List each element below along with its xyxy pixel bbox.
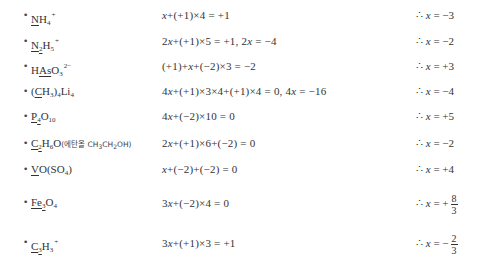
formula-part: + [55,37,59,45]
formula-part: O [41,110,49,122]
bullet-icon: • [23,3,28,27]
formula-part: O [51,64,59,76]
result-value: +4 [442,163,454,175]
formula-part: H [42,85,50,97]
formula-part: 3 [50,246,54,254]
result-value: −3 [442,9,454,21]
oxidation-equation: (+1)+x+(−2)×3 = −2 [162,54,256,78]
bullet-icon: • [23,29,28,53]
list-item: •Fe3O43x+(−2)×4 = 0∴ x = +83 [0,190,477,216]
formula-part: + [51,11,55,19]
oxidation-equation: x+(+1)×4 = +1 [162,3,230,27]
formula-part: 2− [64,62,71,70]
oxidation-equation: 4x+(−2)×10 = 0 [162,104,235,128]
formula-part: N [31,13,39,25]
fraction: 83 [451,193,458,216]
chemical-formula: Fe3O4 [31,190,57,218]
list-item: •NH4+x+(+1)×4 = +1∴ x = −3 [0,3,477,27]
list-item: •N2H5+2x+(+1)×5 = +1, 2x = −4∴ x = −2 [0,29,477,53]
list-item: •VO(SO4)x+(−2)+(−2) = 0∴ x = +4 [0,157,477,181]
result-value: +5 [442,110,454,122]
oxidation-equation: 3x+(−2)×4 = 0 [162,190,229,216]
chemical-formula: C2H6O(에탄올 CH3CH2OH) [31,131,131,159]
result-value: −4 [442,85,454,97]
chemical-formula: VO(SO4) [31,157,72,185]
formula-part: CH [102,140,113,149]
oxidation-result: ∴ x = −2 [416,29,454,53]
formula-part: H [42,240,50,252]
oxidation-equation: x+(−2)+(−2) = 0 [162,157,238,181]
formula-part: H [39,13,47,25]
oxidation-result: ∴ x = −2 [416,131,454,155]
oxidation-equation: 2x+(+1)×6+(−2) = 0 [162,131,255,155]
result-value: −2 [442,137,454,149]
formula-part: 4 [70,91,74,99]
fraction-numerator: 2 [451,233,458,245]
formula-part: O(SO [39,163,65,175]
formula-part: 4 [53,202,57,210]
formula-part: V [31,163,39,175]
formula-part: 4 [47,19,51,27]
formula-part: 3 [59,70,63,78]
chemical-formula: C3H3+ [31,230,58,262]
result-value: +3 [442,60,454,72]
fraction: 23 [451,233,458,256]
oxidation-result: ∴ x = +83 [416,190,458,216]
formula-part: 10 [49,116,56,124]
formula-part: 5 [50,45,54,53]
result-value: −2 [442,35,454,47]
oxidation-result: ∴ x = −3 [416,3,454,27]
list-item: •C2H6O(에탄올 CH3CH2OH)2x+(+1)×6+(−2) = 0∴ … [0,131,477,155]
fraction-numerator: 8 [451,193,458,205]
formula-part: C [35,85,42,97]
list-item: •C3H3+3x+(+1)×3 = +1∴ x = −23 [0,230,477,256]
bullet-icon: • [23,190,28,214]
formula-part: ) [68,163,72,175]
oxidation-result: ∴ x = −23 [416,230,458,256]
fraction-denominator: 3 [451,205,458,216]
oxidation-equation: 3x+(+1)×3 = +1 [162,230,236,256]
formula-part: + [54,238,58,246]
list-item: •(CH3)4Li44x+(+1)×3×4+(+1)×4 = 0, 4x = −… [0,79,477,103]
list-item: •HAsO32−(+1)+x+(−2)×3 = −2∴ x = +3 [0,54,477,78]
oxidation-result: ∴ x = +3 [416,54,454,78]
bullet-icon: • [23,104,28,128]
oxidation-result: ∴ x = +5 [416,104,454,128]
formula-part: As [39,64,51,76]
formula-part: (에탄올 CH [61,140,98,149]
bullet-icon: • [23,157,28,181]
formula-part: Fe [31,196,42,208]
bullet-icon: • [23,230,28,254]
oxidation-result: ∴ x = −4 [416,79,454,103]
chemical-formula: P4O10 [31,104,56,132]
oxidation-result: ∴ x = +4 [416,157,454,181]
formula-part: H [42,137,50,149]
formula-part: OH) [117,140,131,149]
chemical-formula: (CH3)4Li4 [31,79,74,107]
bullet-icon: • [23,54,28,78]
formula-part: H [31,64,39,76]
bullet-icon: • [23,79,28,103]
formula-part: N [31,39,39,51]
fraction-denominator: 3 [451,245,458,256]
oxidation-equation: 2x+(+1)×5 = +1, 2x = −4 [162,29,277,53]
oxidation-equation: 4x+(+1)×3×4+(+1)×4 = 0, 4x = −16 [162,79,326,103]
list-item: •P4O104x+(−2)×10 = 0∴ x = +5 [0,104,477,128]
formula-part: Li [61,85,71,97]
bullet-icon: • [23,131,28,155]
